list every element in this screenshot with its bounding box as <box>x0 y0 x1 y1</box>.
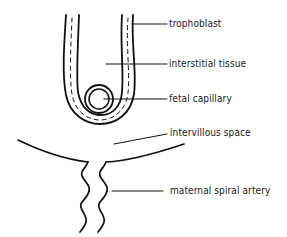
villus-inner-wall <box>77 15 122 115</box>
label-trophoblast: trophoblast <box>169 18 221 30</box>
label-interstitial-tissue: interstitial tissue <box>169 58 246 70</box>
leader-intervillous-space <box>114 134 167 144</box>
basal-plate-arc <box>18 140 184 162</box>
spiral-artery-left-wall <box>80 162 89 232</box>
label-maternal-spiral-artery: maternal spiral artery <box>170 185 270 197</box>
label-intervillous-space: intervillous space <box>170 127 251 139</box>
placenta-diagram <box>0 0 287 237</box>
villus-outer-wall <box>64 15 135 124</box>
spiral-artery-right-wall <box>98 162 107 232</box>
label-fetal-capillary: fetal capillary <box>169 93 232 105</box>
